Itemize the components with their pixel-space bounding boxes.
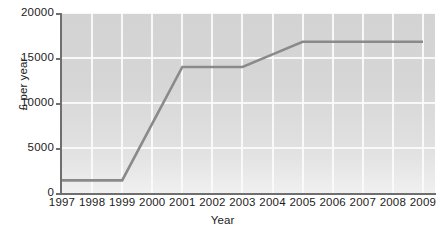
x-axis-title: Year [0,214,445,226]
x-axis-tick-label: 2004 [259,196,285,208]
x-axis-tick-label: 2000 [139,196,165,208]
x-axis-tick-labels: 1997199819992000200120022003200420052006… [0,196,445,214]
x-axis-tick-label: 2005 [289,196,315,208]
y-axis-tick-mark [56,148,60,150]
x-axis-tick-label: 2003 [229,196,255,208]
x-axis-tick-label: 2001 [169,196,195,208]
x-axis-tick-label: 1999 [109,196,135,208]
y-axis-tick-label: 15000 [6,52,54,64]
y-axis-tick-mark [56,58,60,60]
x-axis-tick-label: 2006 [320,196,346,208]
y-axis-tick-label: 5000 [6,142,54,154]
x-axis-tick-label: 2008 [380,196,406,208]
x-axis-tick-label: 1997 [49,196,75,208]
y-axis-tick-label: 20000 [6,7,54,19]
y-axis-tick-mark [56,103,60,105]
x-axis-tick-label: 2009 [410,196,436,208]
x-axis-tick-label: 2007 [350,196,376,208]
x-axis-line [60,193,436,195]
y-axis-tick-label: 10000 [6,97,54,109]
y-axis-tick-mark [56,193,60,195]
x-axis-tick-label: 2002 [199,196,225,208]
line-chart-figure: £ per year 05000100001500020000 19971998… [0,0,445,234]
data-series-line [62,13,435,193]
x-axis-tick-label: 1998 [79,196,105,208]
y-axis-tick-mark [56,13,60,15]
